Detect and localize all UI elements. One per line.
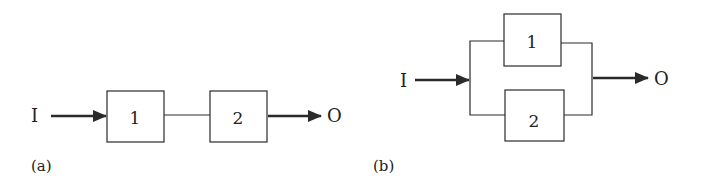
block-2-b-label: 2: [529, 111, 540, 131]
panel-b-caption: (b): [373, 157, 394, 175]
output-label-b: O: [654, 68, 669, 89]
block-1-b-label: 1: [527, 32, 538, 52]
block-2-a-label: 2: [233, 108, 244, 128]
block-1-a-label: 1: [130, 108, 141, 128]
panel-a-caption: (a): [31, 157, 52, 175]
input-label-a: I: [31, 105, 38, 126]
output-bus-b: [561, 43, 592, 115]
output-label-a: O: [327, 105, 342, 126]
input-bus-b: [470, 41, 505, 115]
panel-a-series: I 1 2 O (a): [31, 91, 342, 175]
diagram-canvas: I 1 2 O (a) I 1 2 O (b): [0, 0, 704, 195]
input-label-b: I: [400, 70, 407, 91]
panel-b-parallel: I 1 2 O (b): [373, 14, 669, 175]
